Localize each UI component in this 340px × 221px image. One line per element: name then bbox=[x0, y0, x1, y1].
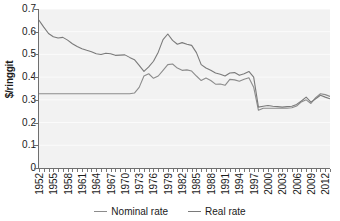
y-tick-mark bbox=[34, 9, 38, 10]
x-tick-mark bbox=[44, 169, 45, 172]
x-tick-label: 1982 bbox=[177, 173, 188, 195]
x-tick-mark bbox=[72, 169, 73, 172]
x-tick-mark bbox=[211, 169, 212, 172]
legend-item-real-rate: Real rate bbox=[188, 206, 246, 217]
x-tick-mark bbox=[111, 169, 112, 172]
y-tick-mark bbox=[34, 77, 38, 78]
y-tick-mark bbox=[34, 145, 38, 146]
x-tick-mark bbox=[125, 169, 126, 172]
x-tick-mark bbox=[254, 169, 255, 172]
x-tick-mark bbox=[115, 169, 116, 172]
x-tick-label: 1955 bbox=[48, 173, 59, 195]
x-tick-mark bbox=[53, 169, 54, 172]
legend-line-swatch-nominal bbox=[94, 211, 107, 212]
x-tick-label: 1991 bbox=[220, 173, 231, 195]
x-tick-mark bbox=[263, 169, 264, 172]
x-tick-mark bbox=[134, 169, 135, 172]
x-tick-label: 2012 bbox=[320, 173, 331, 195]
y-tick-mark bbox=[34, 123, 38, 124]
x-tick-mark bbox=[91, 169, 92, 172]
series-line-nominal-rate bbox=[39, 64, 330, 110]
gridlines bbox=[39, 9, 330, 145]
y-tick-label: 0.3 bbox=[22, 93, 36, 104]
x-tick-label: 1988 bbox=[206, 173, 217, 195]
x-tick-mark bbox=[106, 169, 107, 172]
x-tick-mark bbox=[258, 169, 259, 172]
x-tick-mark bbox=[39, 169, 40, 172]
y-tick-mark bbox=[34, 168, 38, 169]
x-tick-label: 2009 bbox=[306, 173, 317, 195]
y-tick-label: 0.5 bbox=[22, 48, 36, 59]
x-tick-mark bbox=[192, 169, 193, 172]
x-tick-label: 1952 bbox=[34, 173, 45, 195]
x-tick-mark bbox=[282, 169, 283, 172]
data-series-group bbox=[39, 20, 330, 110]
x-tick-mark bbox=[220, 169, 221, 172]
x-tick-mark bbox=[278, 169, 279, 172]
y-tick-label: 0.1 bbox=[22, 139, 36, 150]
x-tick-mark bbox=[158, 169, 159, 172]
chart-legend: Nominal rate Real rate bbox=[0, 202, 340, 220]
y-tick-label: 0.2 bbox=[22, 116, 36, 127]
x-tick-label: 1994 bbox=[234, 173, 245, 195]
y-tick-label: 0.7 bbox=[22, 3, 36, 14]
x-tick-mark bbox=[320, 169, 321, 172]
legend-label-real: Real rate bbox=[205, 206, 246, 217]
x-tick-label: 2000 bbox=[263, 173, 274, 195]
x-tick-mark bbox=[139, 169, 140, 172]
y-axis-tick-labels: 00.10.20.30.40.50.60.7 bbox=[8, 8, 36, 168]
legend-label-nominal: Nominal rate bbox=[111, 206, 168, 217]
x-tick-mark bbox=[82, 169, 83, 172]
y-tick-label: 0.4 bbox=[22, 71, 36, 82]
y-axis-line bbox=[38, 9, 39, 169]
y-tick-label: 0.6 bbox=[22, 25, 36, 36]
x-tick-label: 1970 bbox=[120, 173, 131, 195]
x-tick-mark bbox=[316, 169, 317, 172]
x-tick-mark bbox=[244, 169, 245, 172]
x-tick-mark bbox=[225, 169, 226, 172]
x-tick-mark bbox=[196, 169, 197, 172]
x-tick-label: 1964 bbox=[91, 173, 102, 195]
x-tick-label: 1967 bbox=[106, 173, 117, 195]
x-tick-mark bbox=[149, 169, 150, 172]
x-tick-mark bbox=[235, 169, 236, 172]
x-tick-mark bbox=[58, 169, 59, 172]
x-tick-mark bbox=[287, 169, 288, 172]
y-tick-mark bbox=[34, 100, 38, 101]
x-tick-mark bbox=[230, 169, 231, 172]
x-tick-mark bbox=[153, 169, 154, 172]
legend-line-swatch-real bbox=[188, 211, 201, 212]
x-tick-mark bbox=[120, 169, 121, 172]
x-tick-label: 2006 bbox=[292, 173, 303, 195]
x-axis-tick-labels: 1952195519581961196419671970197319761979… bbox=[0, 173, 340, 203]
x-tick-label: 1985 bbox=[191, 173, 202, 195]
plot-area bbox=[39, 9, 330, 168]
x-tick-mark bbox=[182, 169, 183, 172]
x-tick-mark bbox=[63, 169, 64, 172]
x-tick-mark bbox=[292, 169, 293, 172]
x-tick-label: 1961 bbox=[77, 173, 88, 195]
x-tick-mark bbox=[206, 169, 207, 172]
x-tick-mark bbox=[87, 169, 88, 172]
x-tick-mark bbox=[130, 169, 131, 172]
x-tick-mark bbox=[306, 169, 307, 172]
x-tick-label: 1979 bbox=[163, 173, 174, 195]
x-tick-mark bbox=[273, 169, 274, 172]
x-tick-mark bbox=[77, 169, 78, 172]
x-tick-mark bbox=[173, 169, 174, 172]
x-tick-label: 1997 bbox=[249, 173, 260, 195]
x-tick-mark bbox=[330, 169, 331, 172]
y-tick-mark bbox=[34, 32, 38, 33]
x-tick-label: 1958 bbox=[63, 173, 74, 195]
x-tick-label: 1973 bbox=[134, 173, 145, 195]
x-tick-mark bbox=[301, 169, 302, 172]
x-tick-mark bbox=[96, 169, 97, 172]
x-tick-mark bbox=[311, 169, 312, 172]
series-svg bbox=[39, 9, 330, 168]
y-tick-mark bbox=[34, 54, 38, 55]
x-tick-mark bbox=[297, 169, 298, 172]
exchange-rate-line-chart: $/ringgit 00.10.20.30.40.50.60.7 1952195… bbox=[0, 0, 340, 221]
x-tick-label: 1976 bbox=[148, 173, 159, 195]
x-tick-mark bbox=[216, 169, 217, 172]
x-tick-mark bbox=[68, 169, 69, 172]
